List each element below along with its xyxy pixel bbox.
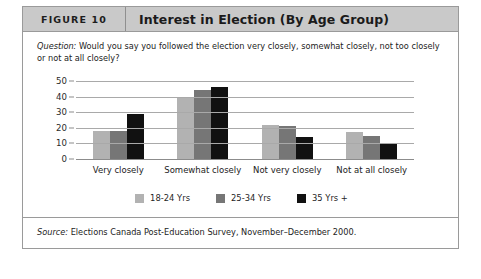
source-divider	[23, 217, 458, 218]
y-tick-mark-20	[69, 127, 74, 128]
question-text: Question: Would you say you followed the…	[37, 40, 442, 65]
gridline-30	[76, 112, 414, 113]
bar-group: Not at all closely	[330, 81, 415, 159]
gridline-40	[76, 97, 414, 98]
y-axis-tick-label: 20	[56, 123, 67, 133]
y-tick-mark-10	[69, 143, 74, 144]
bar-18-24-yrs	[346, 132, 363, 159]
y-axis-tick-label: 50	[56, 76, 67, 86]
y-tick-mark-50	[69, 81, 74, 82]
question-label: Question:	[37, 41, 76, 51]
y-axis-tick-label: 10	[56, 138, 67, 148]
y-axis-tick-label: 40	[56, 92, 67, 102]
y-axis-tick-label: 30	[56, 107, 67, 117]
bar-35-yrs	[127, 114, 144, 159]
chart-legend: 18-24 Yrs25-34 Yrs35 Yrs +	[23, 193, 460, 203]
y-tick-mark-40	[69, 96, 74, 97]
legend-label: 25-34 Yrs	[231, 193, 271, 203]
bar-groups: Very closelySomewhat closelyNot very clo…	[76, 81, 414, 159]
source-label: Source:	[37, 227, 68, 237]
x-axis-category-label: Not at all closely	[336, 165, 407, 175]
legend-swatch-icon	[216, 194, 225, 203]
bar-25-34-yrs	[194, 90, 211, 159]
question-body: Would you say you followed the election …	[37, 41, 440, 63]
figure-number-label: FIGURE 10	[23, 7, 126, 31]
bar-35-yrs	[296, 137, 313, 159]
source-note: Source: Elections Canada Post-Education …	[37, 227, 356, 237]
chart-area: Very closelySomewhat closelyNot very clo…	[23, 73, 460, 188]
x-axis-category-label: Somewhat closely	[164, 165, 241, 175]
x-axis-category-label: Very closely	[93, 165, 144, 175]
legend-label: 35 Yrs +	[312, 193, 348, 203]
bar-25-34-yrs	[363, 136, 380, 159]
bar-group: Very closely	[76, 81, 161, 159]
bar-25-34-yrs	[110, 131, 127, 159]
bar-group: Somewhat closely	[161, 81, 246, 159]
legend-swatch-icon	[135, 194, 144, 203]
gridline-10	[76, 143, 414, 144]
gridline-50	[76, 81, 414, 82]
y-tick-mark-30	[69, 112, 74, 113]
y-tick-mark-0	[69, 159, 74, 160]
figure-frame: FIGURE 10 Interest in Election (By Age G…	[22, 6, 459, 249]
figure-header: FIGURE 10 Interest in Election (By Age G…	[23, 7, 458, 32]
y-axis-tick-label: 0	[62, 154, 67, 164]
gridline-20	[76, 128, 414, 129]
x-axis-category-label: Not very closely	[253, 165, 321, 175]
figure-title: Interest in Election (By Age Group)	[126, 12, 389, 27]
legend-item: 25-34 Yrs	[216, 193, 271, 203]
bar-35-yrs	[380, 143, 397, 159]
legend-item: 18-24 Yrs	[135, 193, 190, 203]
bar-18-24-yrs	[262, 125, 279, 159]
plot-area: Very closelySomewhat closelyNot very clo…	[76, 81, 414, 159]
bar-18-24-yrs	[93, 131, 110, 159]
source-body: Elections Canada Post-Education Survey, …	[68, 227, 356, 237]
bar-group: Not very closely	[245, 81, 330, 159]
bar-35-yrs	[211, 87, 228, 159]
legend-item: 35 Yrs +	[297, 193, 348, 203]
legend-swatch-icon	[297, 194, 306, 203]
gridline-0	[76, 159, 414, 160]
legend-label: 18-24 Yrs	[150, 193, 190, 203]
